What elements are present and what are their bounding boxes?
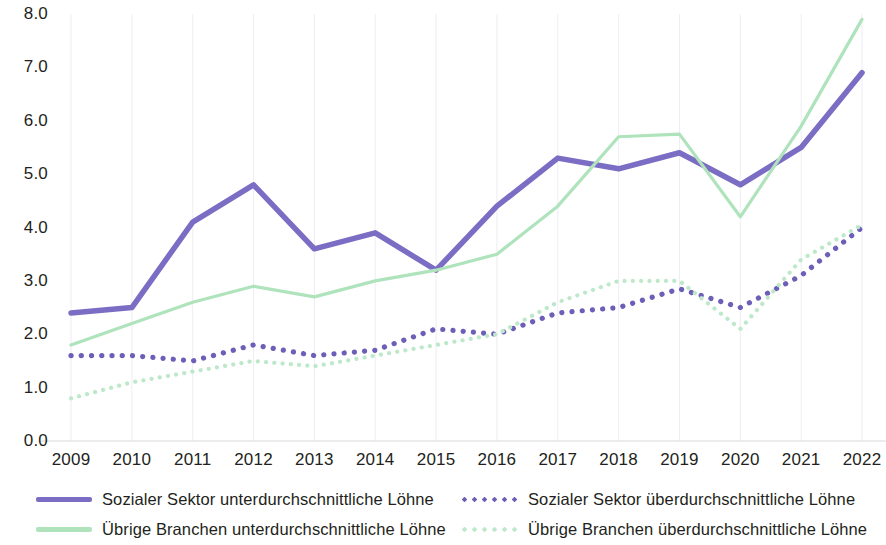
x-tick-label: 2022 bbox=[835, 451, 886, 469]
x-tick-label: 2015 bbox=[409, 451, 463, 469]
series-0 bbox=[71, 73, 862, 313]
legend-row: Übrige Branchen unterdurchschnittliche L… bbox=[0, 514, 886, 544]
series-line-solid bbox=[71, 73, 862, 313]
chart-legend: Sozialer Sektor unterdurchschnittliche L… bbox=[0, 484, 886, 545]
legend-swatch-bar bbox=[462, 497, 518, 502]
legend-swatch-dotted-icon bbox=[462, 521, 518, 537]
y-tick-label: 4.0 bbox=[2, 219, 48, 236]
legend-swatch-bar bbox=[36, 497, 92, 502]
y-tick-label: 5.0 bbox=[2, 165, 48, 182]
x-tick-label: 2010 bbox=[105, 451, 159, 469]
series-line-dotted bbox=[71, 225, 862, 398]
legend-uebrige-branchen-ueber[interactable]: Übrige Branchen überdurchschnittliche Lö… bbox=[440, 514, 886, 544]
y-tick-label: 8.0 bbox=[2, 5, 48, 22]
x-tick-label: 2019 bbox=[652, 451, 706, 469]
x-tick-label: 2021 bbox=[774, 451, 828, 469]
legend-swatch-solid-icon bbox=[36, 521, 92, 537]
legend-row: Sozialer Sektor unterdurchschnittliche L… bbox=[0, 484, 886, 514]
y-axis: 8.07.06.05.04.03.02.01.00.0 bbox=[0, 0, 48, 460]
legend-label: Übrige Branchen unterdurchschnittliche L… bbox=[102, 520, 446, 539]
y-tick-label: 3.0 bbox=[2, 272, 48, 289]
legend-uebrige-branchen-unter[interactable]: Übrige Branchen unterdurchschnittliche L… bbox=[0, 514, 440, 544]
legend-sozialer-sektor-unter[interactable]: Sozialer Sektor unterdurchschnittliche L… bbox=[0, 484, 440, 514]
legend-label: Sozialer Sektor unterdurchschnittliche L… bbox=[102, 490, 434, 509]
legend-swatch-bar bbox=[36, 527, 92, 532]
y-tick-label: 1.0 bbox=[2, 379, 48, 396]
x-tick-label: 2012 bbox=[227, 451, 281, 469]
line-chart: 8.07.06.05.04.03.02.01.00.0 200920102011… bbox=[0, 0, 886, 545]
series-3 bbox=[71, 225, 862, 398]
legend-label: Sozialer Sektor überdurchschnittliche Lö… bbox=[528, 490, 855, 509]
y-tick-label: 6.0 bbox=[2, 112, 48, 129]
series-line-dotted bbox=[71, 228, 862, 361]
y-tick-label: 2.0 bbox=[2, 325, 48, 342]
legend-label: Übrige Branchen überdurchschnittliche Lö… bbox=[528, 520, 867, 539]
y-tick-label: 7.0 bbox=[2, 58, 48, 75]
legend-swatch-dotted-icon bbox=[462, 491, 518, 507]
x-tick-label: 2017 bbox=[531, 451, 585, 469]
x-tick-label: 2014 bbox=[348, 451, 402, 469]
legend-swatch-bar bbox=[462, 527, 518, 532]
legend-sozialer-sektor-ueber[interactable]: Sozialer Sektor überdurchschnittliche Lö… bbox=[440, 484, 886, 514]
x-tick-label: 2018 bbox=[592, 451, 646, 469]
series-1 bbox=[71, 228, 862, 361]
x-axis: 2009201020112012201320142015201620172018… bbox=[0, 447, 886, 473]
x-tick-label: 2009 bbox=[44, 451, 98, 469]
x-tick-label: 2016 bbox=[470, 451, 524, 469]
x-tick-label: 2020 bbox=[713, 451, 767, 469]
legend-swatch-solid-icon bbox=[36, 491, 92, 507]
x-tick-label: 2013 bbox=[287, 451, 341, 469]
x-tick-label: 2011 bbox=[166, 451, 220, 469]
